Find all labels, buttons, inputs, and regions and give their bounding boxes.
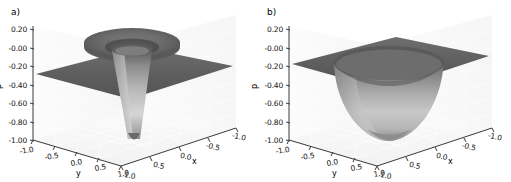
- panel-a-ztick-3: -0.40: [0, 81, 27, 90]
- panel-b-plot: [256, 0, 511, 182]
- panel-b-xtick-2: 0.0: [435, 151, 448, 162]
- panel-b-xtick-1: 0.5: [408, 160, 421, 171]
- panel-a-ztick-0: 0.20: [0, 25, 27, 34]
- panel-a-xtick-1: 0.5: [152, 160, 165, 171]
- panel-b-ztick-4: -0.60: [249, 99, 283, 108]
- panel-b-zaxis-label: p: [250, 84, 259, 89]
- panel-a-ztick-6: -1.00: [0, 136, 27, 145]
- panel-a-ytick-3: 0.5: [94, 162, 107, 173]
- panel-b-xtick-0: 1.0: [379, 170, 392, 181]
- panel-b-yaxis-label: y: [332, 169, 337, 178]
- panel-b-ztick-2: -0.20: [249, 62, 283, 71]
- panel-a-xtick-0: 1.0: [123, 170, 136, 181]
- panel-a-xaxis-label: x: [192, 157, 197, 166]
- panel-b-ytick-3: 0.5: [350, 162, 363, 173]
- panel-a-ztick-4: -0.60: [0, 99, 27, 108]
- panel-b-scene: 0.20 -0.00 -0.20 -0.40 -0.60 -0.80 -1.00…: [256, 0, 511, 182]
- panel-a-xtick-2: 0.0: [179, 151, 192, 162]
- panel-a-plot: [0, 0, 255, 182]
- panel-b-ztick-1: -0.00: [249, 44, 283, 53]
- panel-b-ztick-0: 0.20: [249, 25, 283, 34]
- panel-b-xaxis-label: x: [448, 157, 453, 166]
- panel-a-scene: 0.20 -0.00 -0.20 -0.40 -0.60 -0.80 -1.00…: [0, 0, 255, 182]
- panel-a-ytick-2: 0.0: [70, 157, 83, 168]
- panel-a-ztick-5: -0.80: [0, 118, 27, 127]
- figure-3d-surface-pair: a): [0, 0, 511, 182]
- panel-a: a): [0, 0, 255, 182]
- panel-a-ztick-1: -0.00: [0, 44, 27, 53]
- panel-b-ytick-2: 0.0: [326, 157, 339, 168]
- panel-a-yaxis-label: y: [76, 169, 81, 178]
- panel-b: b): [256, 0, 511, 182]
- panel-b-ztick-6: -1.00: [249, 136, 283, 145]
- panel-a-zaxis-label: p: [0, 84, 3, 89]
- panel-a-ztick-2: -0.20: [0, 62, 27, 71]
- panel-b-ztick-5: -0.80: [249, 118, 283, 127]
